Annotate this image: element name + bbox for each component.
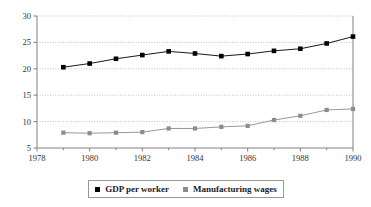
data-point-marker [193, 126, 197, 130]
y-axis-tick-labels: 51015202530 [23, 11, 32, 153]
data-point-marker [167, 126, 171, 130]
data-point-marker [325, 108, 329, 112]
series-gdp-per-worker [61, 34, 355, 69]
x-tick-label: 1982 [134, 153, 151, 163]
series-line [63, 37, 353, 68]
data-point-marker [324, 41, 329, 46]
legend-item-gdp-per-worker: GDP per worker [95, 185, 169, 194]
data-point-marker [246, 124, 250, 128]
y-tick-label: 5 [27, 143, 31, 153]
y-tick-label: 30 [23, 11, 32, 21]
data-point-marker [114, 131, 118, 135]
data-point-marker [87, 61, 92, 66]
y-tick-label: 20 [23, 64, 32, 74]
series-line [63, 109, 353, 133]
legend-label-gdp-per-worker: GDP per worker [105, 185, 169, 194]
series-manufacturing-wages [61, 107, 355, 135]
data-point-marker [140, 130, 144, 134]
legend-label-manufacturing-wages: Manufacturing wages [193, 185, 277, 194]
data-point-marker [272, 118, 276, 122]
x-tick-label: 1986 [239, 153, 256, 163]
y-tick-label: 10 [23, 117, 32, 127]
x-tick-label: 1978 [29, 153, 46, 163]
legend-swatch-icon [183, 187, 188, 192]
data-point-marker [61, 65, 66, 70]
data-point-marker [219, 54, 224, 59]
data-point-marker [351, 34, 356, 39]
data-point-marker [272, 49, 277, 54]
legend-swatch-icon [95, 187, 100, 192]
legend-item-manufacturing-wages: Manufacturing wages [183, 185, 277, 194]
axis-ticks [34, 16, 354, 152]
data-point-marker [351, 107, 355, 111]
y-tick-label: 15 [23, 90, 32, 100]
data-point-marker [245, 52, 250, 57]
data-point-marker [193, 51, 198, 56]
data-point-marker [114, 56, 119, 61]
data-point-marker [88, 131, 92, 135]
chart-container: 51015202530 1978198019821984198619881990… [0, 0, 371, 207]
data-point-marker [298, 46, 303, 51]
data-point-marker [61, 131, 65, 135]
plot-area: 51015202530 1978198019821984198619881990 [0, 0, 371, 168]
grid-lines [37, 16, 353, 122]
y-tick-label: 25 [23, 37, 32, 47]
data-point-marker [298, 114, 302, 118]
data-point-marker [140, 53, 145, 58]
x-tick-label: 1980 [81, 153, 98, 163]
x-tick-label: 1984 [187, 153, 205, 163]
chart-legend: GDP per worker Manufacturing wages [88, 180, 284, 198]
x-axis-tick-labels: 1978198019821984198619881990 [29, 153, 362, 163]
x-tick-label: 1988 [292, 153, 309, 163]
data-point-marker [219, 125, 223, 129]
line-chart-svg: 51015202530 1978198019821984198619881990 [0, 0, 371, 168]
data-point-marker [166, 49, 171, 54]
x-tick-label: 1990 [345, 153, 362, 163]
